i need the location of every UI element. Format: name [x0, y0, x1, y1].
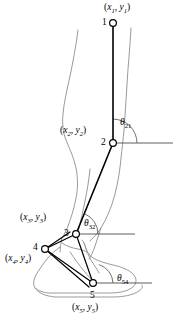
- joint-number-3: 3: [64, 229, 69, 239]
- coordinate-label-1: (x1, y1): [104, 3, 130, 14]
- joint-marker-4[interactable]: [42, 246, 49, 253]
- angle-label-theta32: θ32: [84, 219, 95, 230]
- joint-number-1: 1: [102, 18, 107, 28]
- comma-2: ,: [71, 125, 73, 135]
- theta-sub-54: 54: [122, 278, 129, 285]
- coordinate-label-2: (x2, y2): [60, 126, 86, 137]
- thigh-front-outline: [90, 28, 131, 241]
- paren-close-1: ): [127, 2, 130, 12]
- comma-1: ,: [115, 2, 117, 12]
- theta-sub-32: 32: [89, 223, 96, 230]
- segment-links-group: [45, 23, 113, 287]
- coordinate-label-4: (x4, y4): [5, 254, 31, 265]
- joint-number-4: 4: [33, 243, 38, 253]
- ankle-back-outline: [60, 238, 62, 252]
- angle-arc-theta54: [99, 265, 113, 283]
- joint-marker-1[interactable]: [110, 20, 117, 27]
- joint-number-2: 2: [101, 138, 106, 148]
- heel-toe-segment: [45, 249, 93, 283]
- comma-5: ,: [83, 302, 85, 312]
- figure-canvas: [0, 0, 175, 321]
- joint-marker-2[interactable]: [110, 140, 117, 147]
- coordinate-label-5: (x5, y5): [72, 303, 98, 314]
- joint-markers-group: [42, 20, 117, 287]
- joint-number-5: 5: [90, 291, 95, 301]
- paren-close-5: ): [95, 302, 98, 312]
- paren-close-4: ): [28, 253, 31, 263]
- theta-sub-21: 21: [125, 122, 132, 129]
- heel-lower-segment: [45, 249, 89, 287]
- reference-axes-group: [76, 143, 173, 283]
- joint-marker-3[interactable]: [73, 231, 80, 238]
- paren-close-3: ): [43, 212, 46, 222]
- paren-close-2: ): [83, 125, 86, 135]
- coordinate-label-3: (x3, y3): [20, 213, 46, 224]
- comma-3: ,: [31, 212, 33, 222]
- angle-label-theta21: θ21: [120, 118, 131, 129]
- comma-4: ,: [16, 253, 18, 263]
- angle-label-theta54: θ54: [117, 274, 128, 285]
- ankle-front-outline: [89, 228, 101, 259]
- leg-segment-figure: (x1, y1) 1 (x2, y2) 2 θ21 (x3, y3) 3 θ32…: [0, 0, 175, 321]
- joint-marker-5[interactable]: [90, 280, 97, 287]
